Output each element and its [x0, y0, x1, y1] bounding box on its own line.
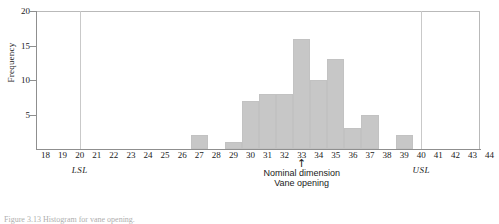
y-axis-tick-label: 10 — [4, 76, 30, 85]
histogram-bar — [259, 94, 276, 149]
y-axis-tick — [30, 46, 36, 47]
y-axis-tick — [30, 115, 36, 116]
histogram-bar — [344, 128, 361, 149]
vane-opening-label: Vane opening — [222, 178, 382, 188]
arrow-up-icon: ↑ — [222, 160, 382, 168]
y-axis-tick-label: 20 — [4, 7, 30, 16]
nominal-dimension-label: Nominal dimension — [222, 168, 382, 178]
usl-label: USL — [391, 165, 451, 175]
nominal-dimension-annotation: ↑ Nominal dimension Vane opening — [222, 160, 382, 188]
y-axis-tick-label: 15 — [4, 42, 30, 51]
lsl-label: LSL — [50, 165, 110, 175]
histogram-bar — [276, 94, 293, 149]
figure-caption: Figure 3.13 Histogram for vane opening. — [4, 215, 135, 224]
histogram-bar — [293, 39, 310, 149]
histogram-bar — [242, 101, 259, 149]
x-axis-tick-label: 44 — [480, 150, 499, 160]
y-axis-tick — [30, 80, 36, 81]
y-axis-tick-label: 5 — [4, 111, 30, 120]
histogram-bar — [361, 115, 378, 150]
y-axis-tick — [30, 11, 36, 12]
y-axis-labels: 2015105 — [0, 0, 30, 160]
x-axis-labels: 1819202122232425262728293031323334353637… — [0, 150, 494, 160]
bar-series — [37, 11, 481, 149]
histogram-bar — [310, 80, 327, 149]
histogram-bar — [396, 135, 413, 149]
histogram-bar — [191, 135, 208, 149]
histogram-bar — [225, 142, 242, 149]
histogram-bar — [327, 59, 344, 149]
